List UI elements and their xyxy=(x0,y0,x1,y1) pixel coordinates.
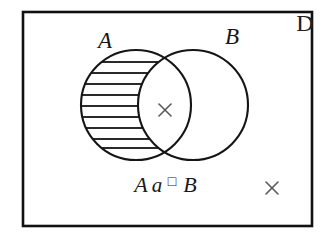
expression-part-a: A xyxy=(132,172,148,197)
label-set-a: A xyxy=(96,28,113,53)
expression-part-b: B xyxy=(183,172,196,197)
venn-diagram-canvas: A B D A a □ B xyxy=(0,0,330,238)
expression-part-a-lower: a xyxy=(152,173,163,197)
venn-diagram-figure: A B D A a □ B xyxy=(0,0,330,238)
expression-part-tofu-box: □ xyxy=(168,174,177,189)
label-set-b: B xyxy=(225,24,239,49)
universe-rectangle xyxy=(23,12,312,226)
label-universe-d: D xyxy=(296,10,313,36)
